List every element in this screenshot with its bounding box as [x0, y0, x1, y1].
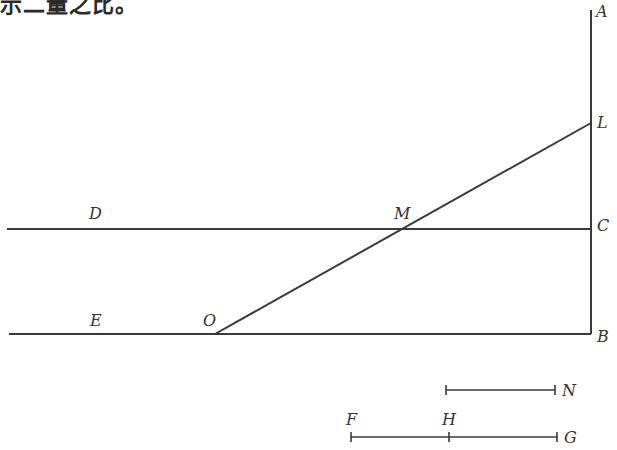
label-a: A [594, 2, 608, 21]
label-g: G [564, 428, 577, 447]
label-e: E [89, 311, 102, 330]
label-m: M [393, 204, 411, 223]
label-l: L [596, 113, 608, 132]
label-h: H [441, 410, 457, 429]
label-d: D [88, 204, 102, 223]
label-n: N [561, 381, 577, 400]
segment-fg [351, 432, 557, 442]
label-o: O [203, 311, 216, 330]
label-b: B [596, 327, 609, 346]
label-f: F [345, 410, 358, 429]
label-c: C [597, 216, 609, 235]
geometry-diagram: A L C B D M E O N F H G [0, 0, 617, 450]
segment-n [446, 385, 555, 395]
